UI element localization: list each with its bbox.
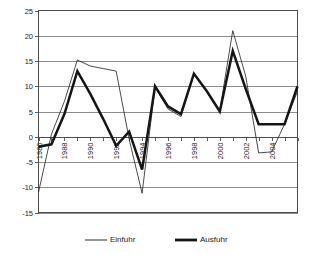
- plot-frame: [39, 11, 298, 213]
- y-tick-label: 10: [25, 82, 33, 91]
- x-tick-label: 1990: [86, 143, 95, 160]
- y-tick-label: 0: [29, 133, 33, 142]
- x-tick-label: 1996: [164, 143, 173, 160]
- x-tick-label: 2002: [242, 143, 251, 160]
- x-tick-label: 1988: [60, 143, 69, 160]
- x-tick-label: 2000: [216, 143, 225, 160]
- chart-canvas: 2520151050-5-10-15 198619881990199219941…: [0, 0, 310, 255]
- legend-label-einfuhr: Einfuhr: [110, 235, 136, 244]
- y-tick-label: -10: [22, 183, 33, 192]
- y-axis-tick-labels: 2520151050-5-10-15: [22, 7, 33, 218]
- y-tick-label: 20: [25, 32, 33, 41]
- y-tick-label: -5: [26, 158, 33, 167]
- x-tick-label: 1998: [190, 143, 199, 160]
- legend-label-ausfuhr: Ausfuhr: [200, 235, 228, 244]
- y-tick-label: 5: [29, 108, 33, 117]
- y-tick-label: 25: [25, 7, 33, 16]
- x-axis-tick-labels: 1986198819901992199419961998200020022004: [35, 143, 277, 160]
- y-tick-label: 15: [25, 57, 33, 66]
- chart-legend: EinfuhrAusfuhr: [85, 235, 228, 244]
- line-chart: 2520151050-5-10-15 198619881990199219941…: [0, 0, 310, 255]
- y-tick-label: -15: [22, 209, 33, 218]
